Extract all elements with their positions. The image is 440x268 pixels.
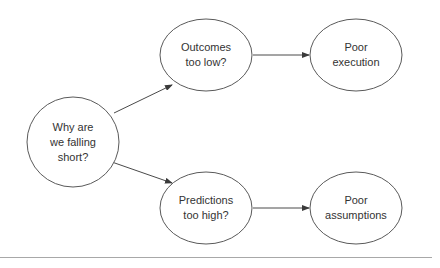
node-root-line-1: Why are — [27, 120, 119, 135]
node-execution-line-1: Poor — [310, 40, 402, 55]
node-outcomes-line-1: Outcomes — [160, 40, 252, 55]
edge-root-to-outcomes — [114, 85, 172, 113]
node-assumptions-line-2: assumptions — [310, 208, 402, 223]
node-assumptions-label: Poor assumptions — [310, 193, 402, 223]
node-root-line-3: short? — [27, 150, 119, 165]
node-root-label: Why are we falling short? — [27, 120, 119, 165]
node-assumptions-line-1: Poor — [310, 193, 402, 208]
node-predictions-line-1: Predictions — [160, 193, 252, 208]
bottom-divider — [0, 257, 432, 258]
node-outcomes-line-2: too low? — [160, 55, 252, 70]
node-execution-line-2: execution — [310, 55, 402, 70]
node-predictions-label: Predictions too high? — [160, 193, 252, 223]
node-predictions-line-2: too high? — [160, 208, 252, 223]
node-outcomes-label: Outcomes too low? — [160, 40, 252, 70]
node-root-line-2: we falling — [27, 135, 119, 150]
node-execution-label: Poor execution — [310, 40, 402, 70]
